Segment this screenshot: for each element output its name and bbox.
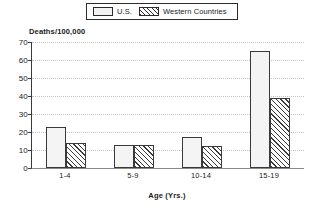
y-tick-mark [28, 114, 31, 115]
legend-label-us: U.S. [117, 8, 132, 16]
bar-us[interactable] [114, 145, 134, 168]
bar-group [168, 42, 236, 168]
bar-group [236, 42, 304, 168]
y-tick-label: 40 [0, 92, 28, 101]
y-tick-label: 30 [0, 110, 28, 119]
x-tick-label: 15-19 [235, 171, 303, 183]
chart-legend: U.S. Western Countries [86, 3, 238, 20]
y-tick-mark [28, 60, 31, 61]
y-tick-mark [28, 42, 31, 43]
bar-us[interactable] [46, 127, 66, 168]
y-tick-label: 20 [0, 128, 28, 137]
legend-item-us: U.S. [93, 7, 132, 16]
x-axis-tick-labels: 1-45-910-1415-19 [31, 171, 303, 183]
y-tick-label: 50 [0, 74, 28, 83]
legend-label-western: Western Countries [163, 8, 227, 16]
bar-western[interactable] [134, 145, 154, 168]
bar-western[interactable] [202, 146, 222, 168]
y-tick-mark [28, 132, 31, 133]
bar-us[interactable] [182, 137, 202, 168]
x-axis-title: Age (Yrs.) [31, 191, 303, 200]
y-tick-mark [28, 96, 31, 97]
x-tick-label: 10-14 [167, 171, 235, 183]
chart-root: U.S. Western Countries Deaths/100,000 01… [0, 0, 316, 210]
y-axis-tick-labels: 010203040506070 [0, 42, 28, 168]
bar-western[interactable] [270, 98, 290, 168]
y-tick-label: 10 [0, 146, 28, 155]
x-tick-label: 5-9 [99, 171, 167, 183]
y-tick-label: 70 [0, 38, 28, 47]
plot-area [31, 42, 304, 169]
y-tick-mark [28, 78, 31, 79]
bar-group [100, 42, 168, 168]
y-tick-label: 60 [0, 56, 28, 65]
y-tick-mark [28, 168, 31, 169]
bar-us[interactable] [250, 51, 270, 168]
bar-western[interactable] [66, 143, 86, 168]
legend-item-western: Western Countries [139, 7, 227, 16]
bar-groups [32, 42, 304, 168]
legend-swatch-western-icon [139, 7, 159, 16]
x-tick-label: 1-4 [31, 171, 99, 183]
y-axis-title: Deaths/100,000 [29, 27, 85, 36]
bar-group [32, 42, 100, 168]
y-tick-mark [28, 150, 31, 151]
legend-swatch-us-icon [93, 7, 113, 16]
y-tick-label: 0 [0, 164, 28, 173]
